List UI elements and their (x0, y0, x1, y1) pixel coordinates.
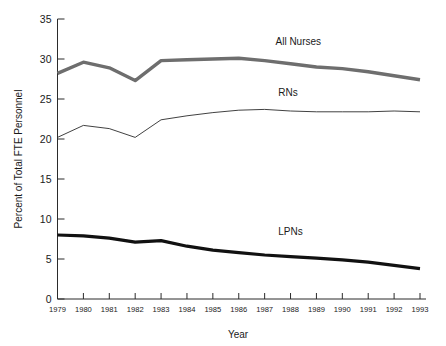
x-tick-label: 1981 (101, 305, 118, 314)
plot-background (0, 0, 446, 346)
x-tick-label: 1991 (360, 305, 377, 314)
y-tick-label: 5 (46, 253, 52, 265)
x-tick-label: 1984 (179, 305, 196, 314)
y-tick-label: 15 (40, 173, 52, 185)
y-tick-label: 20 (40, 133, 52, 145)
y-tick-label: 30 (40, 53, 52, 65)
x-tick-label: 1993 (412, 305, 429, 314)
x-tick-label: 1986 (230, 305, 247, 314)
chart-figure: 05101520253035 1979198019811982198319841… (0, 0, 446, 346)
y-axis-title: Percent of Total FTE Personnel (13, 90, 24, 229)
x-tick-label: 1992 (386, 305, 403, 314)
x-tick-label: 1980 (75, 305, 92, 314)
x-tick-label: 1989 (308, 305, 325, 314)
x-tick-label: 1990 (334, 305, 351, 314)
x-tick-label: 1988 (282, 305, 299, 314)
series-label-all-nurses: All Nurses (276, 36, 322, 47)
x-tick-label: 1983 (153, 305, 170, 314)
series-label-rns: RNs (278, 87, 297, 98)
line-chart: 05101520253035 1979198019811982198319841… (0, 0, 446, 346)
y-tick-label: 35 (40, 13, 52, 25)
y-tick-label: 0 (46, 293, 52, 305)
x-tick-label: 1982 (127, 305, 144, 314)
y-tick-label: 10 (40, 213, 52, 225)
x-tick-label: 1985 (204, 305, 221, 314)
y-tick-label: 25 (40, 93, 52, 105)
x-tick-label: 1979 (49, 305, 66, 314)
x-axis-title: Year (228, 329, 249, 340)
series-label-lpns: LPNs (278, 226, 302, 237)
x-tick-label: 1987 (256, 305, 273, 314)
